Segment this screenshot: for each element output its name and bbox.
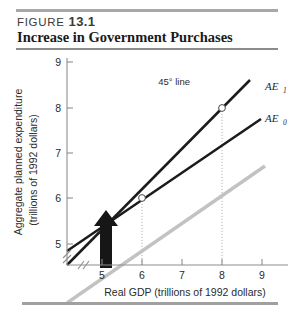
chart-svg: 9 8 7 6 5 5 6 7 8 9: [0, 50, 302, 302]
x-tick-label-5: 5: [99, 269, 105, 281]
series-label-ae0-subscript: 0: [283, 118, 287, 127]
figure-footer-divider: [22, 302, 278, 305]
series-label-ae1-subscript: 1: [283, 86, 287, 95]
series-label-ae0-text: AE: [264, 112, 279, 124]
figure-eyebrow-word: FIGURE: [17, 16, 65, 28]
x-tick-label-9: 9: [259, 269, 265, 281]
y-axis-tick-labels: 9 8 7 6 5: [55, 56, 61, 250]
y-axis-ticks: [67, 62, 73, 244]
x-tick-label-6: 6: [139, 269, 145, 281]
series-label-ae0: AE 0: [264, 112, 287, 127]
header-top-divider: [16, 9, 278, 12]
y-tick-label-8: 8: [55, 102, 61, 114]
figure-eyebrow: FIGURE 13.1: [17, 14, 95, 29]
series-label-ae1-text: AE: [264, 80, 279, 92]
annotation-45-degree-label: 45° line: [158, 76, 190, 87]
y-tick-label-9: 9: [55, 56, 61, 68]
chart-area: 9 8 7 6 5 5 6 7 8 9: [0, 50, 302, 302]
x-axis-tick-labels: 5 6 7 8 9: [99, 269, 265, 281]
series-label-ae1: AE 1: [264, 80, 287, 95]
figure-title: Increase in Government Purchases: [17, 29, 233, 46]
figure-eyebrow-number: 13.1: [69, 14, 96, 29]
marker-new-equilibrium: [219, 105, 226, 112]
y-axis-title-line2: (trillions of 1992 dollars): [27, 114, 39, 225]
y-tick-label-5: 5: [55, 238, 61, 250]
x-tick-label-8: 8: [219, 269, 225, 281]
marker-initial-equilibrium: [139, 195, 146, 202]
y-axis-title-line1: Aggregate planned expenditure: [12, 89, 24, 236]
x-axis-title: Real GDP (trillions of 1992 dollars): [104, 286, 265, 298]
y-tick-label-7: 7: [55, 147, 61, 159]
y-tick-label-6: 6: [55, 192, 61, 204]
series-line-ae1: [67, 119, 261, 251]
x-tick-label-7: 7: [179, 269, 185, 281]
